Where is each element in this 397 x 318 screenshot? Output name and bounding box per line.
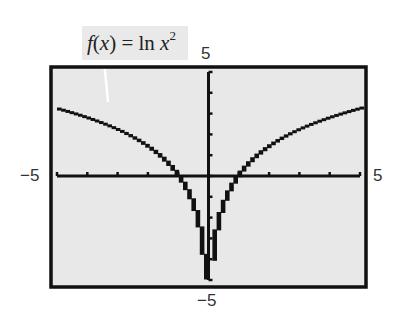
curve-segment [305,125,310,128]
curve-segment [212,229,217,260]
curve-segment [292,130,297,133]
curve-segment [133,136,138,139]
curve-segment [128,134,133,137]
curve-segment [74,112,79,115]
curve-segment [233,176,238,183]
curve-segment [229,183,234,192]
curve-segment [347,110,352,113]
curve-segment [120,130,125,133]
curve-segment [183,182,188,190]
curve-segment [103,123,108,126]
curve-segment [191,198,196,211]
curve-segment [82,115,87,118]
curve-segment [250,157,255,162]
graph-screen [0,0,397,318]
curve-segment [359,107,364,110]
curve-segment [170,165,175,171]
curve-segment [86,117,91,120]
curve-segment [137,139,142,143]
curve-segment [112,126,117,129]
curve-segment [355,108,360,111]
curve-segment [351,109,356,112]
curve-segment [179,175,184,182]
curve-segment [326,117,331,120]
curve-segment [271,142,276,146]
curve-segment [162,157,167,162]
curve-segment [107,124,112,127]
curve-segment [263,147,268,151]
curve-segment [95,119,100,122]
curve-segment [330,115,335,118]
curve-segment [166,161,171,166]
curve-segment [334,114,339,117]
curve-segment [91,118,96,121]
curve-segment [145,144,150,148]
curve-segment [296,128,301,131]
curve-segment [116,128,121,131]
curve-segment [149,147,154,151]
curve-segment [70,111,75,114]
curve-segment [57,108,62,111]
curve-segment [259,150,264,154]
curve-segment [187,189,192,199]
curve-segment [200,226,205,254]
curve-segment [280,137,285,140]
curve-segment [158,153,163,158]
curve-segment [267,144,272,148]
curve-segment [313,121,318,124]
curve-segment [99,121,104,124]
curve-segment [78,114,83,117]
curve-segment [154,150,159,154]
curve-segment [343,111,348,114]
curve-segment [338,113,343,116]
curve-segment [238,171,243,178]
curve-segment [322,118,327,121]
curve-segment [254,154,259,159]
curve-segment [141,141,146,145]
curve-segment [65,110,70,113]
curve-segment [284,134,289,137]
curve-segment [275,139,280,143]
curve-segment [217,212,222,230]
curve-segment [317,120,322,123]
curve-segment [196,210,201,227]
curve-segment [225,190,230,200]
curve-segment [175,170,180,177]
curve-segment [61,109,66,112]
curve-segment [309,123,314,126]
curve-segment [124,132,129,135]
curve-segment [246,161,251,166]
curve-segment [301,126,306,129]
curve-segment [204,254,209,280]
curve-segment [242,166,247,172]
curve-segment [288,132,293,135]
curve-segment [221,200,226,213]
